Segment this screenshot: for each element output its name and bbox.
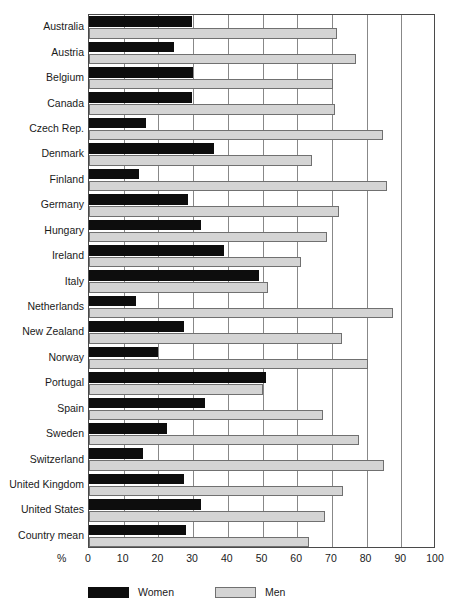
legend-label: Men	[265, 586, 285, 598]
legend-item-women: Women	[88, 585, 174, 599]
category-label: Hungary	[0, 225, 84, 236]
x-tick-label: 80	[360, 552, 372, 565]
bar-men	[89, 308, 393, 319]
category-label: Czech Rep.	[0, 123, 84, 134]
category-label: Austria	[0, 47, 84, 58]
bar-men	[89, 232, 327, 243]
bar-men	[89, 257, 301, 268]
bar-women	[89, 42, 174, 53]
category-label: United States	[0, 504, 84, 515]
bar-women	[89, 169, 139, 180]
legend-item-men: Men	[215, 585, 285, 599]
category-label: Italy	[0, 276, 84, 287]
bar-women	[89, 398, 205, 409]
category-label: Netherlands	[0, 301, 84, 312]
bar-women	[89, 92, 192, 103]
bar-group	[89, 117, 434, 142]
bar-group	[89, 66, 434, 91]
category-label: Australia	[0, 21, 84, 32]
bar-women	[89, 220, 201, 231]
legend-swatch-women	[88, 587, 129, 598]
bar-group	[89, 320, 434, 345]
category-label: United Kingdom	[0, 479, 84, 490]
x-tick-label: 40	[221, 552, 233, 565]
bar-women	[89, 423, 167, 434]
bar-men	[89, 435, 359, 446]
bar-men	[89, 206, 339, 217]
category-label: New Zealand	[0, 326, 84, 337]
bar-women	[89, 372, 266, 383]
bar-women	[89, 245, 224, 256]
category-axis-labels: AustraliaAustriaBelgiumCanadaCzech Rep.D…	[0, 14, 84, 548]
x-tick-label: 50	[256, 552, 268, 565]
bar-chart: AustraliaAustriaBelgiumCanadaCzech Rep.D…	[0, 0, 458, 615]
bar-group	[89, 15, 434, 40]
bar-men	[89, 181, 387, 192]
bar-group	[89, 524, 434, 549]
bar-women	[89, 525, 186, 536]
bar-group	[89, 142, 434, 167]
bar-women	[89, 448, 143, 459]
bar-men	[89, 130, 383, 141]
x-axis: % 0102030405060708090100	[0, 552, 458, 572]
bar-group	[89, 218, 434, 243]
bar-women	[89, 321, 184, 332]
bar-women	[89, 67, 193, 78]
category-label: Norway	[0, 352, 84, 363]
x-tick-label: 10	[117, 552, 129, 565]
bar-women	[89, 474, 184, 485]
category-label: Country mean	[0, 530, 84, 541]
legend-swatch-men	[215, 587, 256, 598]
legend-label: Women	[138, 586, 174, 598]
bar-women	[89, 118, 146, 129]
category-label: Sweden	[0, 428, 84, 439]
bar-group	[89, 40, 434, 65]
bar-women	[89, 194, 188, 205]
bars-layer	[89, 15, 434, 547]
category-label: Switzerland	[0, 454, 84, 465]
x-tick-label: 30	[186, 552, 198, 565]
category-label: Ireland	[0, 250, 84, 261]
bar-group	[89, 244, 434, 269]
bar-group	[89, 269, 434, 294]
x-tick-label: 90	[394, 552, 406, 565]
bar-men	[89, 155, 312, 166]
bar-group	[89, 498, 434, 523]
category-label: Denmark	[0, 148, 84, 159]
bar-women	[89, 16, 192, 27]
bar-men	[89, 486, 343, 497]
x-tick-label: 60	[290, 552, 302, 565]
x-tick-label: 0	[85, 552, 91, 565]
category-label: Portugal	[0, 377, 84, 388]
bar-group	[89, 346, 434, 371]
category-label: Finland	[0, 174, 84, 185]
x-axis-unit-label: %	[57, 552, 66, 565]
bar-men	[89, 282, 268, 293]
bar-men	[89, 359, 368, 370]
bar-group	[89, 168, 434, 193]
bar-group	[89, 91, 434, 116]
bar-group	[89, 371, 434, 396]
bar-women	[89, 499, 201, 510]
bar-men	[89, 54, 356, 65]
bar-women	[89, 296, 136, 307]
bar-women	[89, 270, 259, 281]
bar-men	[89, 511, 325, 522]
bar-group	[89, 422, 434, 447]
category-label: Canada	[0, 98, 84, 109]
x-tick-label: 70	[325, 552, 337, 565]
bar-men	[89, 410, 323, 421]
bar-men	[89, 537, 309, 548]
bar-group	[89, 396, 434, 421]
bar-group	[89, 447, 434, 472]
category-label: Germany	[0, 199, 84, 210]
plot-area	[88, 14, 435, 548]
category-label: Spain	[0, 403, 84, 414]
bar-men	[89, 104, 335, 115]
bar-group	[89, 295, 434, 320]
chart-legend: WomenMen	[0, 585, 458, 605]
bar-group	[89, 473, 434, 498]
bar-men	[89, 384, 263, 395]
bar-women	[89, 143, 214, 154]
bar-group	[89, 193, 434, 218]
